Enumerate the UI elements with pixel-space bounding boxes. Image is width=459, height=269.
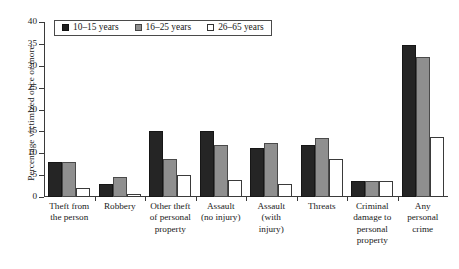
bar-6-0[interactable] [351,181,365,197]
bar-0-2[interactable] [76,188,90,197]
bar-2-1[interactable] [163,159,177,197]
bar-2-0[interactable] [149,131,163,197]
x-axis-label-4: Assault(withinjury) [246,201,297,247]
x-axis-label-line: the person [45,212,94,223]
bar-4-1[interactable] [264,143,278,197]
legend-swatch-icon-1 [135,24,142,31]
y-tick-label-20: 20 [28,105,37,114]
bar-6-2[interactable] [379,181,393,197]
bar-3-0[interactable] [200,131,214,197]
x-axis-label-7: Anypersonalcrime [398,201,449,247]
bar-2-2[interactable] [177,175,191,197]
bar-group-3 [196,22,247,197]
x-axis-label-6: Criminaldamage topersonalproperty [347,201,398,247]
legend-label-2: 26–65 years [218,23,264,32]
y-tick-label-25: 25 [28,83,37,92]
y-tick-label-35: 35 [28,39,37,48]
bar-6-1[interactable] [365,181,379,197]
bar-group-2 [145,22,196,197]
x-axis-label-line: crime [399,224,448,235]
y-tick-label-15: 15 [28,127,37,136]
x-axis-label-line: Assault [197,201,246,212]
x-axis-label-3: Assault(no injury) [196,201,247,247]
bar-0-0[interactable] [48,162,62,197]
bar-1-2[interactable] [127,194,141,198]
y-tick-0 [39,197,44,198]
legend-label-0: 10–15 years [73,23,119,32]
x-axis-label-line: property [348,235,397,246]
legend-label-1: 16–25 years [146,23,192,32]
bar-group-6 [347,22,398,197]
x-axis-label-0: Theft fromthe person [44,201,95,247]
bar-5-1[interactable] [315,138,329,197]
plot-area: 0510152025303540 [44,22,448,197]
legend-swatch-icon-0 [62,24,69,31]
x-axis-label-5: Threats [297,201,348,247]
x-axis-label-line: Robbery [96,201,145,212]
x-axis-label-line: Assault [247,201,296,212]
bar-4-0[interactable] [250,148,264,197]
bar-5-2[interactable] [329,159,343,197]
bar-group-5 [297,22,348,197]
legend-item-1[interactable]: 16–25 years [135,23,192,32]
bar-group-0 [44,22,95,197]
bar-7-2[interactable] [430,137,444,197]
x-axis-label-line: Other theft [146,201,195,212]
x-axis-label-line: (with [247,212,296,223]
y-tick-label-10: 10 [28,149,37,158]
legend-swatch-icon-2 [207,24,214,31]
y-tick-label-40: 40 [28,17,37,26]
x-axis-label-line: (no injury) [197,212,246,223]
bar-1-0[interactable] [99,184,113,197]
y-tick-label-30: 30 [28,61,37,70]
x-axis-label-line: property [146,224,195,235]
x-axis-labels: Theft fromthe personRobberyOther theftof… [44,201,448,247]
bar-group-7 [398,22,449,197]
bar-1-1[interactable] [113,177,127,197]
x-axis-label-line: of personal [146,212,195,223]
bar-5-0[interactable] [301,145,315,198]
bar-chart: Percentage victimized once or more 05101… [0,0,459,269]
bar-group-1 [95,22,146,197]
x-axis-label-line: Threats [298,201,347,212]
y-tick-label-5: 5 [32,171,37,180]
bar-3-1[interactable] [214,145,228,198]
bar-group-4 [246,22,297,197]
chart-legend: 10–15 years 16–25 years 26–65 years [54,20,272,36]
legend-item-2[interactable]: 26–65 years [207,23,264,32]
x-axis-label-line: injury) [247,224,296,235]
x-axis-label-2: Other theftof personalproperty [145,201,196,247]
bar-7-1[interactable] [416,57,430,197]
y-tick-label-0: 0 [32,192,37,201]
x-axis-label-line: personal [399,212,448,223]
x-axis-label-line: personal [348,224,397,235]
x-axis-label-1: Robbery [95,201,146,247]
bar-3-2[interactable] [228,180,242,197]
bar-0-1[interactable] [62,162,76,197]
legend-item-0[interactable]: 10–15 years [62,23,119,32]
bar-4-2[interactable] [278,184,292,197]
x-axis-label-line: Any [399,201,448,212]
bar-7-0[interactable] [402,45,416,197]
x-axis-label-line: Criminal [348,201,397,212]
x-axis-label-line: Theft from [45,201,94,212]
x-axis-label-line: damage to [348,212,397,223]
bar-groups [44,22,448,197]
